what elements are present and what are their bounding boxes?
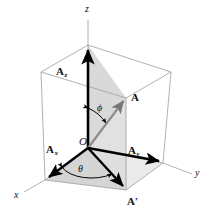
vector-label-A-prime-mark: ′ (135, 195, 138, 207)
vector-label-A-prime: A′ (127, 196, 138, 207)
vector-label-Az-sub: z (64, 71, 67, 79)
vector-diagram-figure: z y x A A′ Az Ax Ay O ϕ θ (0, 0, 216, 220)
vector-label-Az: Az (56, 66, 67, 79)
vector-label-Ax-sub: x (54, 149, 58, 157)
vector-label-Ax-text: A (46, 143, 54, 155)
vector-label-Ay-text: A (128, 144, 136, 156)
axis-label-y: y (195, 168, 199, 178)
diagram-canvas (0, 0, 216, 220)
vector-label-Ay-sub: y (136, 150, 139, 158)
vector-label-A-prime-text: A (127, 195, 135, 207)
vector-label-Ay: Ay (128, 145, 140, 158)
point-label-O: O (79, 136, 87, 147)
angle-label-theta: θ (78, 164, 83, 174)
axis-label-x: x (14, 190, 18, 200)
vector-label-Az-text: A (56, 65, 64, 77)
vector-label-A: A (131, 92, 139, 103)
vector-label-Ax: Ax (46, 144, 58, 157)
axis-label-z: z (85, 4, 89, 14)
vector-label-A-text: A (131, 91, 139, 103)
angle-label-phi: ϕ (97, 103, 102, 113)
